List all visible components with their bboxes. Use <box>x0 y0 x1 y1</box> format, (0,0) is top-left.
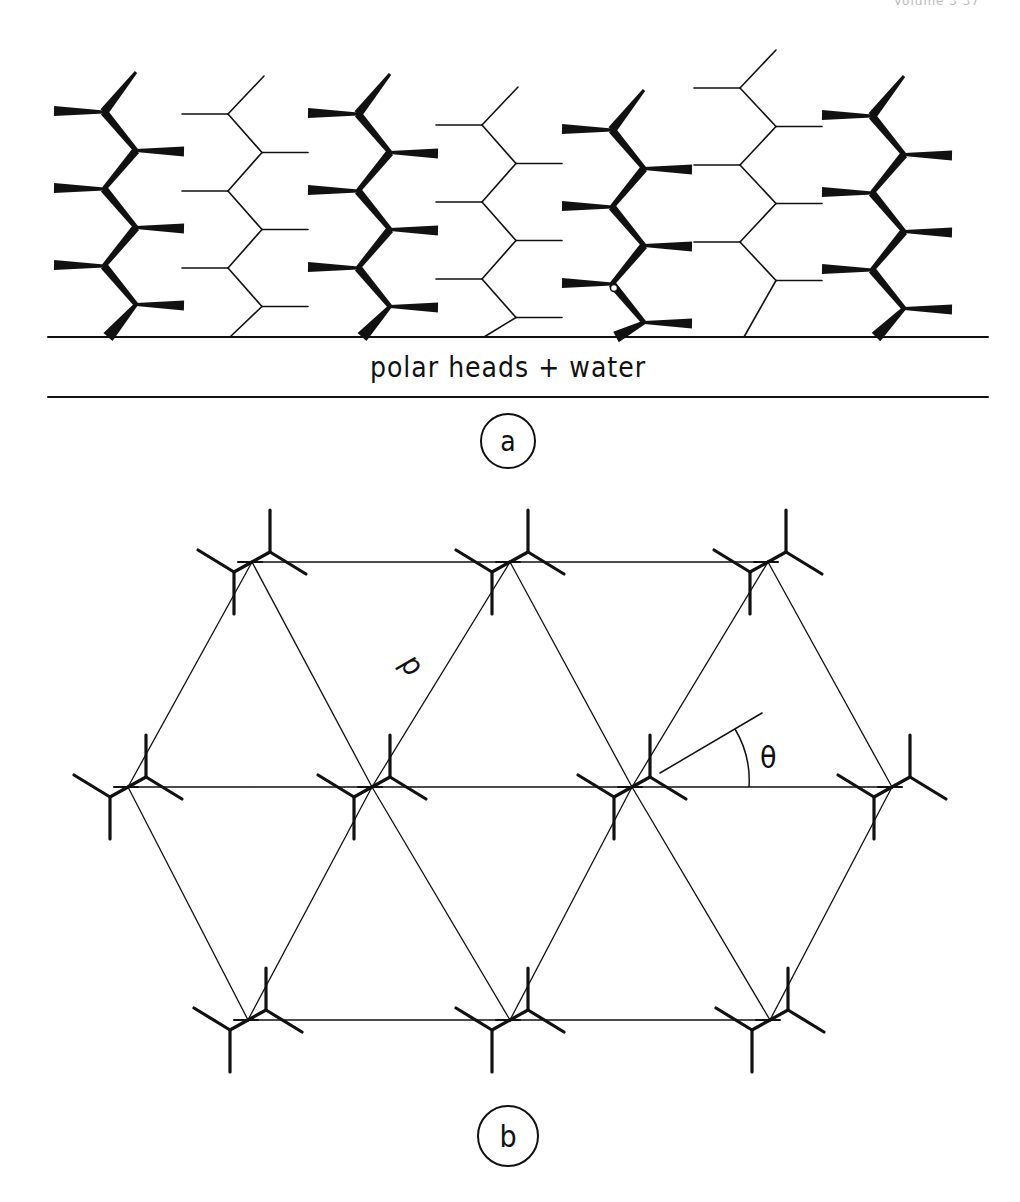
panel-a-monolayer: polar heads + watera <box>48 50 988 468</box>
band-label: polar heads + water <box>370 351 646 384</box>
molecule-bond <box>528 1010 564 1032</box>
molecule-bond <box>716 1008 752 1030</box>
molecule-bond <box>510 552 528 562</box>
chain-bold-1 <box>54 71 184 341</box>
chain-side-branch <box>390 149 438 159</box>
chain-anchor <box>230 307 262 338</box>
chain-spine-segment <box>740 165 776 204</box>
molecule-bond <box>752 1020 770 1030</box>
molecule-bond <box>892 777 910 787</box>
chain-spine-segment <box>740 204 776 243</box>
chain-top-branch <box>608 89 645 133</box>
chain-side-branch <box>644 319 692 329</box>
lattice-diagonal <box>372 787 510 1020</box>
chain-spine-segment <box>740 242 776 281</box>
chain-spine-segment <box>609 127 646 170</box>
chain-thin-6 <box>694 50 822 337</box>
chain-side-branch <box>644 165 692 175</box>
panel-b-hexagonal-lattice: dθb <box>74 510 946 1166</box>
chain-side-branch <box>136 224 184 234</box>
chain-spine-segment <box>869 267 906 310</box>
chain-spine-segment <box>482 202 516 241</box>
molecule-bond <box>838 775 874 797</box>
chain-side-branch <box>562 124 612 134</box>
molecule-bond <box>270 552 306 574</box>
chain-bold-5 <box>562 89 692 342</box>
chain-thin-2 <box>182 76 308 337</box>
chain-side-branch <box>390 226 438 236</box>
chain-top-branch <box>868 75 905 119</box>
chain-side-branch <box>904 305 952 315</box>
molecule-bond <box>74 775 110 797</box>
lattice-diagonal <box>632 787 770 1020</box>
chain-anchor <box>358 305 392 341</box>
chain-spine-segment <box>228 153 262 192</box>
chain-top-branch <box>354 73 391 117</box>
chain-side-branch <box>308 262 358 272</box>
molecule-bond <box>456 550 492 572</box>
figure-canvas: polar heads + watera dθb <box>0 0 1020 1202</box>
molecule-bond <box>768 552 786 562</box>
molecule-bond <box>110 787 128 797</box>
chain-thin-4 <box>436 87 562 337</box>
chain-spine-segment <box>355 188 392 231</box>
chain-side-branch <box>562 201 612 211</box>
molecule-bond <box>910 777 946 799</box>
molecule-bond <box>266 1010 302 1032</box>
chain-spine-segment <box>610 243 647 286</box>
chain-spine-segment <box>228 268 262 307</box>
chain-anchor <box>103 303 137 341</box>
molecule-bond <box>390 777 426 799</box>
chain-spine-segment <box>740 127 776 166</box>
chain-side-branch <box>136 301 184 311</box>
molecule-bond <box>492 1020 510 1030</box>
chain-spine-segment <box>869 113 906 156</box>
chain-spine-segment <box>482 241 516 280</box>
chain-bold-7 <box>822 75 952 341</box>
lattice-diagonal <box>768 562 892 787</box>
lattice-diagonal <box>632 562 768 787</box>
chain-side-branch <box>904 228 952 238</box>
chain-side-branch <box>390 303 438 313</box>
chain-spine-segment <box>101 109 138 152</box>
chain-side-branch <box>308 185 358 195</box>
chain-spine-segment <box>355 265 392 308</box>
chain-side-branch <box>562 278 612 288</box>
molecule-bond <box>786 552 822 574</box>
chain-spine-segment <box>870 229 907 272</box>
molecule-bond <box>528 552 564 574</box>
molecule-bond <box>578 775 614 797</box>
chain-spine-segment <box>356 150 393 193</box>
molecule-bond <box>230 1020 248 1030</box>
panel-b-label: b <box>499 1119 516 1154</box>
angle-arc <box>735 729 749 787</box>
distance-label: d <box>389 651 428 683</box>
chain-spine-segment <box>356 227 393 270</box>
molecule-bond <box>146 777 182 799</box>
chain-side-branch <box>822 187 872 197</box>
panel-a-label: a <box>500 425 515 458</box>
tilt-direction-line <box>660 713 762 773</box>
chain-side-branch <box>54 183 104 193</box>
chain-anchor <box>744 281 776 338</box>
chain-spine-segment <box>609 204 646 247</box>
chain-top-branch <box>482 87 518 125</box>
molecule-bond <box>318 775 354 797</box>
molecule-bond <box>650 777 686 799</box>
chain-spine-segment <box>482 125 516 164</box>
chain-spine-segment <box>228 114 262 153</box>
chain-side-branch <box>822 110 872 120</box>
chain-spine-segment <box>740 88 776 127</box>
chain-spine-segment <box>482 164 516 203</box>
lattice-diagonal <box>510 562 632 787</box>
chain-spine-segment <box>870 152 907 195</box>
molecule-bond <box>198 550 234 572</box>
chain-side-branch <box>54 260 104 270</box>
lattice-diagonal <box>128 787 248 1020</box>
molecule-bond <box>194 1008 230 1030</box>
chain-spine-segment <box>610 166 647 209</box>
chain-top-branch <box>228 76 264 114</box>
chain-spine-segment <box>102 148 139 191</box>
chain-anchor <box>613 321 645 343</box>
chain-side-branch <box>822 264 872 274</box>
